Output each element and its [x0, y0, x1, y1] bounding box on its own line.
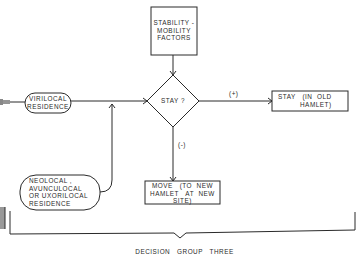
virilocal-node: VIRILOCAL RESIDENCE	[25, 95, 71, 110]
node-label: VIRILOCAL	[25, 95, 71, 103]
node-label: RESIDENCE	[25, 103, 71, 111]
node-label: HAMLET)	[278, 101, 346, 109]
edge-label: (+)	[229, 90, 239, 97]
neolocal-node: NEOLOCAL , AVUNCULOCAL OR UXORILOCAL RES…	[29, 177, 99, 207]
negative-edge-label: (-)	[178, 141, 186, 149]
node-label: NEOLOCAL ,	[29, 177, 99, 185]
positive-edge-label: (+)	[229, 90, 239, 98]
edge-mark	[0, 99, 3, 105]
group-label: DECISION GROUP THREE	[135, 248, 233, 255]
node-label: MOVE (TO NEW	[145, 182, 220, 190]
bracket-label: DECISION GROUP THREE	[110, 240, 250, 258]
stability-mobility-node: STABILITY - MOBILITY FACTORS	[151, 19, 197, 42]
node-label: STAY (IN OLD	[278, 93, 346, 101]
node-label: OR UXORILOCAL	[29, 192, 99, 200]
move-new-hamlet-node: MOVE (TO NEW HAMLET AT NEW SITE)	[145, 182, 220, 205]
node-label: STABILITY -	[151, 19, 197, 27]
node-label: SITE)	[145, 197, 220, 205]
group-bracket	[10, 211, 355, 238]
node-label: AVUNCULOCAL	[29, 185, 99, 193]
node-label: HAMLET AT NEW	[145, 190, 220, 198]
edge-label: (-)	[178, 141, 186, 148]
node-label: FACTORS	[151, 34, 197, 42]
connector-neolocal	[100, 104, 112, 192]
stay-decision-node: STAY ?	[150, 97, 196, 105]
node-label: RESIDENCE	[29, 200, 99, 208]
node-label: MOBILITY	[151, 27, 197, 35]
node-label: STAY ?	[161, 97, 185, 104]
stay-old-hamlet-node: STAY (IN OLD HAMLET)	[278, 93, 346, 108]
